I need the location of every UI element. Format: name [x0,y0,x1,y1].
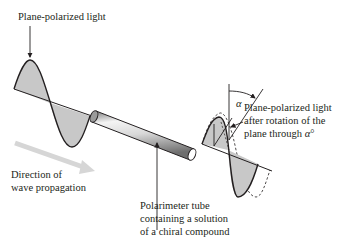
rotated-light-line2: after rotation of the [244,114,332,127]
incident-light-text: Plane-polarized light [18,10,106,23]
rotated-light-label: Plane-polarized light after rotation of … [244,101,332,140]
incident-light-label: Plane-polarized light [18,10,106,23]
rotated-light-degree: ° [310,128,314,139]
incident-wave [14,60,92,147]
tube-line2: containing a solution [140,212,230,225]
rotated-light-line1: Plane-polarized light [244,101,332,114]
rotated-light-line3: plane through α° [244,127,332,140]
alpha-symbol: α [236,97,242,110]
tube-line1: Polarimeter tube [140,199,230,212]
rotated-light-line3-prefix: plane through [244,128,305,139]
tube-label: Polarimeter tube containing a solution o… [140,199,230,238]
direction-line1: Direction of [11,168,86,181]
angle-symbol-label: α [236,97,242,110]
direction-label: Direction of wave propagation [11,168,86,194]
tube-line3: of a chiral compound [140,225,230,238]
polarimeter-tube [89,110,198,162]
direction-line2: wave propagation [11,181,86,194]
rotated-label-pointer [231,122,243,127]
